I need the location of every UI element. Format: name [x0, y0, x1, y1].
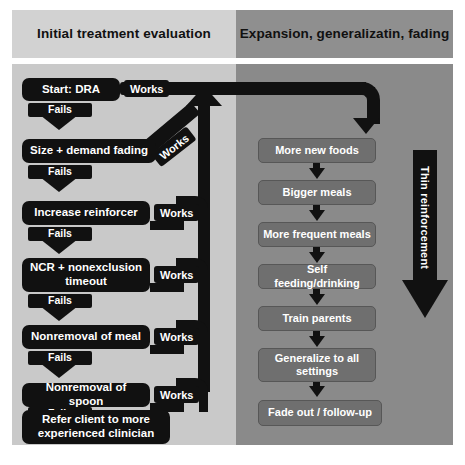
works-label-1: Works — [124, 80, 169, 97]
left-step-4[interactable]: NCR + nonexclusion timeout — [22, 258, 150, 292]
right-step-4-label: Self feeding/drinking — [263, 263, 371, 289]
fails-arrow-5: Fails — [28, 351, 92, 377]
fails-arrow-4-head-icon — [40, 306, 78, 321]
right-connector-arrow-2-icon — [309, 210, 325, 221]
right-connector-arrow-5-icon — [309, 336, 325, 347]
left-step-5-label: Nonremoval of meal — [31, 330, 141, 344]
right-step-7-label: Fade out / follow-up — [268, 406, 372, 419]
fails-arrow-3: Fails — [28, 227, 92, 253]
works-stub-5 — [150, 345, 184, 354]
flowchart-canvas: Initial treatment evaluation Expansion, … — [0, 0, 465, 465]
thin-reinforcement-label: Thin reinforcement — [413, 152, 437, 283]
fails-arrow-5-head-icon — [40, 363, 78, 378]
left-step-6-label: Nonremoval of spoon — [27, 381, 145, 409]
left-panel-header: Initial treatment evaluation — [12, 10, 236, 58]
right-step-2[interactable]: Bigger meals — [258, 180, 376, 205]
fails-arrow-4: Fails — [28, 294, 92, 320]
works-top-arrowhead-icon — [353, 118, 379, 134]
works-stub-3 — [150, 221, 184, 230]
fails-arrow-2-head-icon — [40, 177, 78, 192]
right-connector-arrow-4-icon — [309, 294, 325, 305]
left-step-3-label: Increase reinforcer — [34, 206, 138, 220]
left-panel-title: Initial treatment evaluation — [12, 26, 236, 43]
right-panel-title: Expansion, generalizatin, fading — [236, 26, 453, 43]
works-label-4: Works — [154, 266, 199, 283]
right-step-6-label: Generalize to all settings — [263, 352, 371, 378]
thin-reinforcement-arrow: Thin reinforcement — [402, 150, 448, 318]
fails-arrow-3-head-icon — [40, 239, 78, 254]
thin-reinforcement-arrowhead-icon — [402, 280, 448, 318]
works-label-6: Works — [154, 386, 199, 403]
fails-arrow-2: Fails — [28, 165, 92, 191]
right-step-7[interactable]: Fade out / follow-up — [258, 400, 382, 426]
works-label-5: Works — [154, 328, 199, 345]
right-step-1[interactable]: More new foods — [258, 138, 376, 163]
right-step-5[interactable]: Train parents — [258, 306, 376, 331]
right-step-6[interactable]: Generalize to all settings — [258, 348, 376, 382]
left-step-1-label: Start: DRA — [42, 83, 100, 97]
right-step-2-label: Bigger meals — [282, 186, 351, 199]
right-step-3-label: More frequent meals — [263, 228, 371, 241]
fails-arrow-1-head-icon — [40, 115, 78, 130]
left-step-7[interactable]: Refer client to more experienced clinici… — [22, 410, 170, 444]
right-connector-arrow-3-icon — [309, 252, 325, 263]
right-connector-arrow-6-icon — [309, 386, 325, 397]
left-step-7-label: Refer client to more experienced clinici… — [27, 413, 165, 441]
left-step-2[interactable]: Size + demand fading — [22, 139, 156, 163]
right-step-1-label: More new foods — [275, 144, 359, 157]
fails-arrow-1: Fails — [28, 103, 92, 129]
works-stub-4 — [150, 283, 184, 292]
right-connector-arrow-1-icon — [309, 168, 325, 179]
left-step-5[interactable]: Nonremoval of meal — [22, 325, 150, 349]
right-panel-header: Expansion, generalizatin, fading — [236, 10, 453, 58]
left-step-1[interactable]: Start: DRA — [22, 78, 120, 101]
left-step-6[interactable]: Nonremoval of spoon — [22, 383, 150, 407]
left-step-4-label: NCR + nonexclusion timeout — [27, 261, 145, 289]
left-step-3[interactable]: Increase reinforcer — [22, 201, 150, 225]
right-step-3[interactable]: More frequent meals — [258, 222, 376, 247]
left-step-2-label: Size + demand fading — [30, 144, 148, 158]
right-step-4[interactable]: Self feeding/drinking — [258, 264, 376, 289]
works-label-3: Works — [154, 204, 199, 221]
right-step-5-label: Train parents — [282, 312, 351, 325]
